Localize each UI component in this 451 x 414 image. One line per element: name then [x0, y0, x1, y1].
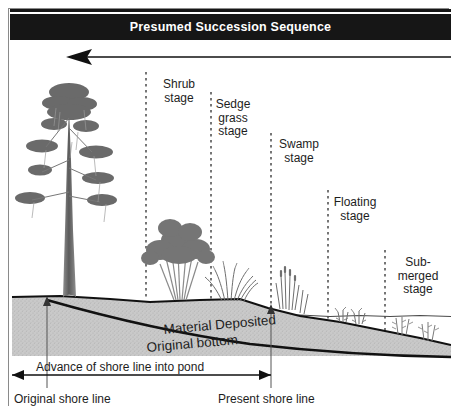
shrub-cluster	[141, 219, 215, 300]
label-advance-of-shore-line: Advance of shore line into pond	[36, 360, 204, 374]
label-original-shore-line: Original shore line	[14, 392, 111, 406]
stage-label-swamp: Swamp stage	[272, 138, 326, 165]
stage-label-floating: Floating stage	[326, 196, 384, 223]
stage-label-sedge: Sedge grass stage	[205, 98, 261, 139]
label-present-shore-line: Present shore line	[218, 392, 315, 406]
tree-climax-forest	[15, 83, 117, 297]
stage-label-submerged: Sub- merged stage	[390, 256, 446, 297]
succession-direction-arrow	[66, 49, 451, 65]
succession-diagram: Presumed Succession Sequence	[0, 0, 451, 414]
stage-label-shrub: Shrub stage	[152, 78, 206, 105]
swamp-reeds	[276, 267, 308, 314]
sedge-grass-clump	[205, 261, 258, 301]
